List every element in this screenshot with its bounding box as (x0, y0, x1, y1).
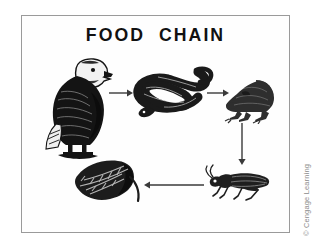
organism-grasshopper (204, 163, 272, 203)
figure-title: FOOD CHAIN (30, 24, 280, 46)
organism-leaf (72, 157, 148, 211)
arrow-grasshopper-to-frog (235, 122, 249, 166)
organism-snake (128, 66, 214, 120)
organism-frog (222, 72, 278, 124)
arrow-leaf-to-grasshopper (143, 178, 205, 192)
copyright-credit: © Cengage Learning (302, 150, 311, 236)
organism-eagle (28, 52, 116, 160)
food-chain-figure: FOOD CHAIN (0, 0, 314, 252)
